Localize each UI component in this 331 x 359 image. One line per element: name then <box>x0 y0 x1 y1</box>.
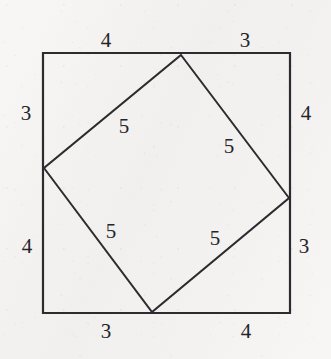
top-right-segment-label: 3 <box>240 30 251 51</box>
inner-square-group <box>44 55 289 312</box>
outer-square <box>43 53 290 313</box>
left-upper-segment-label: 3 <box>21 103 32 124</box>
inner-tilted-square <box>44 55 289 312</box>
inner-side-upper-left-label: 5 <box>119 116 130 137</box>
diagram-canvas: 43344334 5555 <box>0 0 331 359</box>
geometry-figure <box>0 0 331 359</box>
left-lower-segment-label: 4 <box>22 236 33 257</box>
bottom-right-segment-label: 4 <box>241 321 252 342</box>
inner-side-upper-right-label: 5 <box>224 136 235 157</box>
inner-side-lower-right-label: 5 <box>210 228 221 249</box>
bottom-left-segment-label: 3 <box>101 321 112 342</box>
inner-side-lower-left-label: 5 <box>106 221 117 242</box>
outer-square-group <box>43 53 290 313</box>
right-upper-segment-label: 4 <box>301 103 312 124</box>
top-left-segment-label: 4 <box>101 30 112 51</box>
right-lower-segment-label: 3 <box>299 236 310 257</box>
